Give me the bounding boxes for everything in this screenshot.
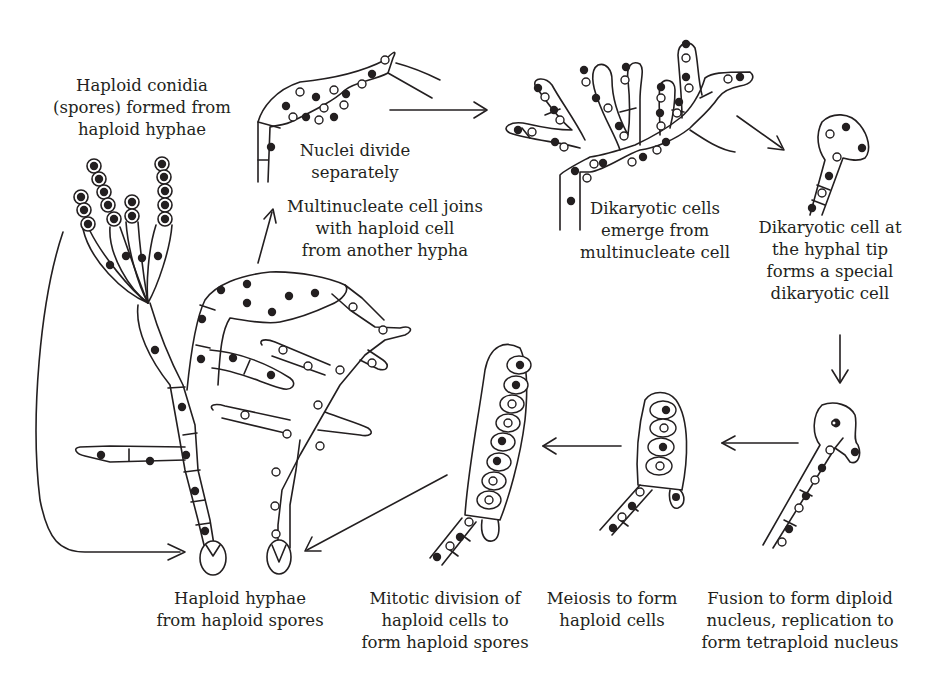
conidiophore [74, 157, 226, 575]
label-line: dikaryotic cell [742, 283, 918, 305]
mitotic-ascus [430, 344, 531, 565]
label-line: emerge from [580, 220, 730, 242]
label-line: nucleus, replication to [690, 610, 910, 632]
label-line: separately [290, 162, 420, 184]
meiosis-ascus [600, 393, 687, 536]
label-haploid-hyphae: Haploid hyphae from haploid spores [150, 588, 330, 632]
label-line: haploid cells [542, 610, 682, 632]
label-line: forms a special [742, 261, 918, 283]
open-nuclei-hypha [211, 285, 410, 574]
conidia-chains [74, 157, 172, 231]
cycle-arrows [36, 102, 848, 560]
label-dikaryotic-emerge: Dikaryotic cells emerge from multinuclea… [580, 198, 730, 264]
label-line: (spores) formed from [42, 97, 242, 119]
label-dikaryotic-tip: Dikaryotic cell at the hyphal tip forms … [742, 217, 918, 305]
label-line: form haploid spores [355, 632, 535, 654]
dikaryotic-tip-cell [808, 115, 869, 215]
label-line: Dikaryotic cell at [742, 217, 918, 239]
label-fusion: Fusion to form diploid nucleus, replicat… [690, 588, 910, 654]
label-line: Nuclei divide [290, 140, 420, 162]
multinucleate-cell-hypha [187, 272, 347, 390]
label-line: Mitotic division of [355, 588, 535, 610]
label-meiosis: Meiosis to form haploid cells [542, 588, 682, 632]
label-line: haploid cells to [355, 610, 535, 632]
label-line: haploid hyphae [42, 119, 242, 141]
label-line: Haploid conidia [42, 75, 242, 97]
label-line: from haploid spores [150, 610, 330, 632]
label-mitotic: Mitotic division of haploid cells to for… [355, 588, 535, 654]
label-line: from another hypha [280, 240, 490, 262]
label-line: Dikaryotic cells [580, 198, 730, 220]
label-multinucleate-join: Multinucleate cell joins with haploid ce… [280, 196, 490, 262]
label-line: Meiosis to form [542, 588, 682, 610]
label-line: Multinucleate cell joins [280, 196, 490, 218]
label-line: Fusion to form diploid [690, 588, 910, 610]
label-line: multinucleate cell [580, 242, 730, 264]
fusion-cell [763, 403, 860, 548]
label-line: Haploid hyphae [150, 588, 330, 610]
label-nuclei-divide: Nuclei divide separately [290, 140, 420, 184]
label-line: with haploid cell [280, 218, 490, 240]
label-line: the hyphal tip [742, 239, 918, 261]
label-conidia: Haploid conidia (spores) formed from hap… [42, 75, 242, 141]
label-line: form tetraploid nucleus [690, 632, 910, 654]
